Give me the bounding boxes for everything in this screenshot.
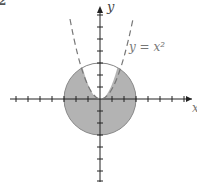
y-axis-arrow-icon [97, 6, 103, 13]
x-axis-label: x [192, 101, 197, 115]
diagram-canvas [0, 0, 197, 187]
y-axis-label: y [107, 0, 114, 14]
curve-label: y = x² [129, 40, 165, 54]
